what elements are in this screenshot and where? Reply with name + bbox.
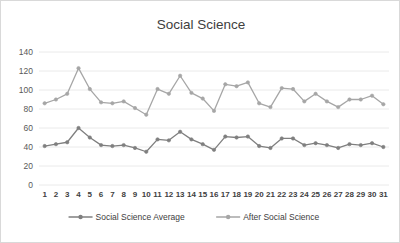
data-point xyxy=(99,101,102,104)
data-point xyxy=(99,143,102,146)
data-point xyxy=(212,109,215,112)
data-point xyxy=(370,142,373,145)
x-tick-label: 13 xyxy=(176,190,185,199)
x-tick-label: 23 xyxy=(289,190,298,199)
data-point xyxy=(77,66,80,69)
x-tick-label: 14 xyxy=(187,190,196,199)
data-point xyxy=(303,143,306,146)
x-tick-label: 22 xyxy=(277,190,286,199)
x-tick-label: 4 xyxy=(76,190,81,199)
data-point xyxy=(269,146,272,149)
y-tick-label: 120 xyxy=(19,66,33,76)
y-tick-label: 20 xyxy=(24,161,34,171)
data-point xyxy=(145,150,148,153)
data-point xyxy=(224,83,227,86)
x-tick-label: 12 xyxy=(164,190,173,199)
data-point xyxy=(201,142,204,145)
y-tick-label: 40 xyxy=(24,142,34,152)
chart-container: Social Science 140120100806040200 123456… xyxy=(0,0,400,243)
data-point xyxy=(325,143,328,146)
x-tick-label: 31 xyxy=(379,190,388,199)
x-tick-label: 6 xyxy=(99,190,104,199)
data-point xyxy=(122,100,125,103)
x-tick-label: 16 xyxy=(210,190,219,199)
data-point xyxy=(190,138,193,141)
chart-title: Social Science xyxy=(157,17,246,32)
data-point xyxy=(291,137,294,140)
y-tick-label: 100 xyxy=(19,85,33,95)
data-point xyxy=(235,136,238,139)
data-point xyxy=(167,139,170,142)
data-point xyxy=(291,87,294,90)
x-tick-label: 21 xyxy=(266,190,275,199)
data-point xyxy=(122,143,125,146)
data-point xyxy=(77,126,80,129)
data-point xyxy=(133,106,136,109)
x-tick-label: 2 xyxy=(54,190,59,199)
y-tick-label: 0 xyxy=(28,180,33,190)
data-point xyxy=(370,94,373,97)
x-tick-label: 25 xyxy=(311,190,320,199)
data-point xyxy=(257,144,260,147)
data-point xyxy=(111,144,114,147)
data-point xyxy=(54,98,57,101)
data-point xyxy=(246,135,249,138)
x-tick-label: 8 xyxy=(121,190,126,199)
x-tick-label: 1 xyxy=(42,190,47,199)
legend-label: Social Science Average xyxy=(96,212,185,222)
x-tick-label: 29 xyxy=(356,190,365,199)
y-tick-label: 80 xyxy=(24,104,34,114)
x-tick-label: 7 xyxy=(110,190,115,199)
data-point xyxy=(382,145,385,148)
x-tick-label: 19 xyxy=(243,190,252,199)
x-tick-label: 24 xyxy=(300,190,309,199)
x-tick-label: 3 xyxy=(65,190,70,199)
data-point xyxy=(190,91,193,94)
data-point xyxy=(43,144,46,147)
x-tick-label: 10 xyxy=(142,190,151,199)
data-point xyxy=(382,103,385,106)
data-point xyxy=(88,136,91,139)
social-science-line-chart: Social Science 140120100806040200 123456… xyxy=(1,1,400,243)
data-point xyxy=(314,92,317,95)
data-point xyxy=(145,113,148,116)
legend-swatch-marker xyxy=(78,215,82,219)
data-point xyxy=(178,130,181,133)
data-point xyxy=(359,143,362,146)
x-tick-label: 27 xyxy=(334,190,343,199)
data-point xyxy=(348,142,351,145)
x-tick-label: 28 xyxy=(345,190,354,199)
chart-background xyxy=(1,1,400,243)
x-tick-label: 5 xyxy=(88,190,93,199)
data-point xyxy=(156,138,159,141)
x-tick-label: 26 xyxy=(322,190,331,199)
data-point xyxy=(66,92,69,95)
data-point xyxy=(88,87,91,90)
y-tick-label: 60 xyxy=(24,123,34,133)
data-point xyxy=(167,92,170,95)
data-point xyxy=(246,81,249,84)
x-tick-label: 11 xyxy=(153,190,162,199)
x-tick-label: 30 xyxy=(368,190,377,199)
data-point xyxy=(54,142,57,145)
data-point xyxy=(336,146,339,149)
x-tick-label: 20 xyxy=(255,190,264,199)
data-point xyxy=(348,98,351,101)
data-point xyxy=(66,141,69,144)
x-tick-label: 17 xyxy=(221,190,230,199)
data-point xyxy=(269,105,272,108)
data-point xyxy=(257,102,260,105)
data-point xyxy=(156,87,159,90)
data-point xyxy=(325,100,328,103)
x-tick-label: 15 xyxy=(198,190,207,199)
data-point xyxy=(359,98,362,101)
data-point xyxy=(235,85,238,88)
data-point xyxy=(201,97,204,100)
legend-label: After Social Science xyxy=(243,212,319,222)
data-point xyxy=(212,148,215,151)
data-point xyxy=(178,74,181,77)
data-point xyxy=(303,100,306,103)
x-tick-label: 18 xyxy=(232,190,241,199)
data-point xyxy=(133,146,136,149)
data-point xyxy=(336,105,339,108)
